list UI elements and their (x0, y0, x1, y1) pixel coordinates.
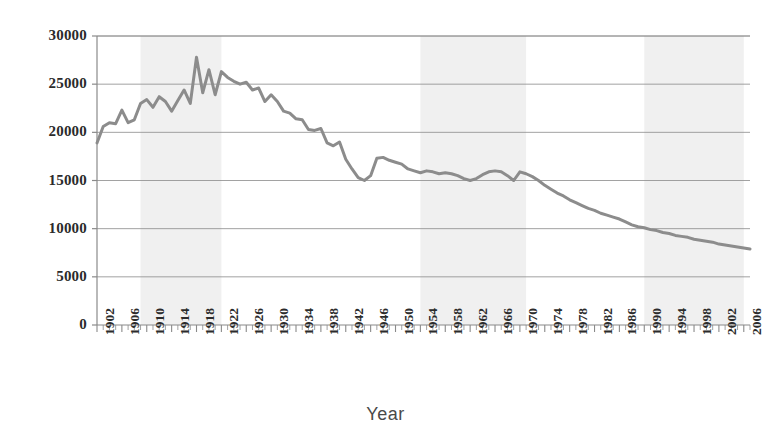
y-tick-label: 0 (79, 316, 87, 333)
x-tick-label: 2002 (724, 308, 740, 335)
x-tick-label: 1978 (575, 308, 591, 335)
x-tick-label: 1910 (152, 308, 168, 335)
x-tick-label: 1966 (500, 308, 516, 335)
x-tick-label: 1990 (649, 308, 665, 335)
x-tick-label: 1962 (475, 308, 491, 335)
x-tick-label: 1998 (699, 308, 715, 335)
line-chart: 050001000015000200002500030000 190219061… (0, 0, 771, 446)
x-tick-label: 1974 (550, 308, 566, 335)
y-tick-label: 30000 (49, 27, 88, 44)
x-tick-label: 1950 (401, 308, 417, 335)
x-tick-label: 2006 (749, 308, 765, 335)
x-tick-label: 1946 (376, 308, 392, 335)
x-tick-label: 1902 (102, 308, 118, 335)
x-axis-title: Year (0, 404, 771, 425)
y-tick-label: 15000 (49, 172, 88, 189)
x-tick-label: 1922 (226, 308, 242, 335)
y-tick-label: 5000 (56, 268, 87, 285)
x-tick-label: 1938 (326, 308, 342, 335)
x-tick-label: 1958 (450, 308, 466, 335)
y-tick-label: 20000 (49, 123, 88, 140)
y-tick-label: 25000 (49, 75, 88, 92)
x-tick-label: 1930 (276, 308, 292, 335)
x-tick-label: 1914 (177, 308, 193, 335)
x-tick-label: 1934 (301, 308, 317, 335)
y-tick-marks (92, 36, 97, 325)
y-tick-label: 10000 (49, 220, 88, 237)
x-tick-label: 1954 (425, 308, 441, 335)
x-tick-label: 1918 (202, 308, 218, 335)
x-tick-label: 1942 (351, 308, 367, 335)
chart-plot-area (0, 0, 771, 446)
x-tick-label: 1994 (674, 308, 690, 335)
x-tick-label: 1982 (600, 308, 616, 335)
x-tick-label: 1986 (624, 308, 640, 335)
x-tick-label: 1926 (251, 308, 267, 335)
x-tick-label: 1970 (525, 308, 541, 335)
x-tick-label: 1906 (127, 308, 143, 335)
